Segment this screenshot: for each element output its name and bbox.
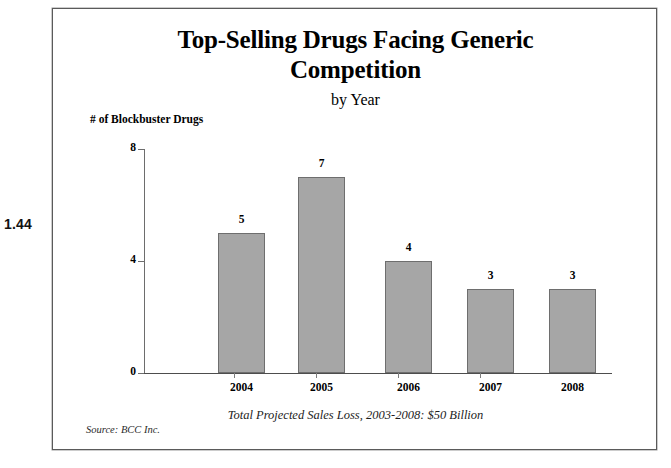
bar-value-2004: 5 <box>218 213 265 225</box>
x-axis-label-2008: 2008 <box>549 381 596 393</box>
y-tick-mark-8 <box>138 149 144 150</box>
x-axis-label-2005: 2005 <box>298 381 345 393</box>
x-tick-mark-3 <box>398 373 399 378</box>
x-axis-label-2007: 2007 <box>467 381 514 393</box>
bar-2005[interactable] <box>298 177 345 373</box>
bar-2007[interactable] <box>467 289 514 373</box>
bar-value-2007: 3 <box>467 269 514 281</box>
x-axis-label-2006: 2006 <box>385 381 432 393</box>
y-tick-mark-0 <box>138 373 144 374</box>
y-axis-title: # of Blockbuster Drugs <box>90 113 203 125</box>
chart-title: Top-Selling Drugs Facing Generic Competi… <box>53 25 658 84</box>
chart-annotation: Total Projected Sales Loss, 2003-2008: $… <box>53 408 658 423</box>
figure-frame: Top-Selling Drugs Facing Generic Competi… <box>52 8 657 450</box>
bar-value-2005: 7 <box>298 157 345 169</box>
plot-area: 8 4 0 5 2004 7 2005 4 2006 3 2007 3 2008 <box>144 149 612 373</box>
bar-value-2006: 4 <box>385 241 432 253</box>
y-axis-line <box>144 149 145 373</box>
x-tick-mark-1 <box>234 373 235 378</box>
x-axis-line <box>144 373 612 374</box>
chart-title-line-1: Top-Selling Drugs Facing Generic <box>178 26 534 53</box>
chart-title-line-2: Competition <box>53 55 658 85</box>
x-tick-mark-4 <box>480 373 481 378</box>
bar-2004[interactable] <box>218 233 265 373</box>
figure-number: 1.44 <box>4 216 48 232</box>
chart-subtitle: by Year <box>53 91 658 109</box>
x-tick-mark-2 <box>316 373 317 378</box>
x-axis-label-2004: 2004 <box>218 381 265 393</box>
y-tick-mark-4 <box>138 261 144 262</box>
y-tick-label-8: 8 <box>114 141 136 153</box>
bar-value-2008: 3 <box>549 269 596 281</box>
bar-2006[interactable] <box>385 261 432 373</box>
y-tick-label-4: 4 <box>114 253 136 265</box>
bar-2008[interactable] <box>549 289 596 373</box>
y-tick-label-0: 0 <box>114 365 136 377</box>
chart-source: Source: BCC Inc. <box>86 424 160 435</box>
